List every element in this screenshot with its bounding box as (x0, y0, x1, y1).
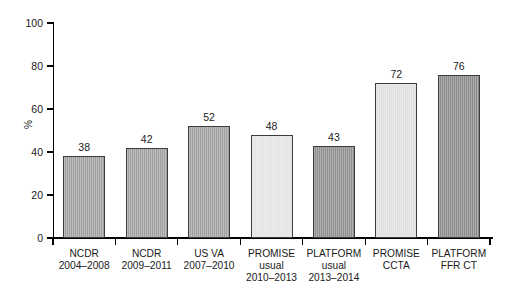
x-axis-category-label: NCDR 2009–2011 (115, 248, 177, 272)
bar-value-label: 43 (304, 132, 364, 143)
x-axis-category-label: PROMISE CCTA (365, 248, 427, 272)
x-axis-category-label: PROMISE usual 2010–2013 (240, 248, 302, 285)
bar-chart-figure: % 020406080100 38425248437276 NCDR 2004–… (0, 0, 508, 296)
x-axis-category-label: NCDR 2004–2008 (53, 248, 115, 272)
bar (251, 135, 293, 238)
bar-value-label: 76 (429, 61, 489, 72)
y-axis-tick-label: 60 (0, 104, 43, 115)
bar-value-label: 72 (366, 69, 426, 80)
x-axis-tick-mark (365, 239, 366, 245)
bar (313, 146, 355, 238)
x-axis-tick-mark (302, 239, 303, 245)
plot-area: 38425248437276 (53, 23, 490, 238)
bar (375, 83, 417, 238)
x-axis-tick-mark (240, 239, 241, 245)
bar (63, 156, 105, 238)
bar (438, 75, 480, 238)
x-axis-tick-mark (115, 239, 116, 245)
bar (126, 148, 168, 238)
x-axis-tick-mark (489, 239, 490, 245)
y-axis-tick-label: 40 (0, 147, 43, 158)
x-axis-category-label: PLATFORM usual 2013–2014 (303, 248, 365, 285)
bar-value-label: 52 (179, 112, 239, 123)
x-axis-category-label: PLATFORM FFR CT (428, 248, 490, 272)
y-axis-tick-label: 100 (0, 18, 43, 29)
x-axis-tick-mark (177, 239, 178, 245)
bar-value-label: 48 (242, 121, 302, 132)
bar-value-label: 38 (54, 142, 114, 153)
y-axis-tick-label: 80 (0, 61, 43, 72)
y-axis-title: % (23, 113, 34, 137)
bar-value-label: 42 (117, 134, 177, 145)
x-axis-tick-mark (52, 239, 53, 245)
x-axis-tick-mark (427, 239, 428, 245)
bar (188, 126, 230, 238)
x-axis-category-label: US VA 2007–2010 (178, 248, 240, 272)
y-axis-tick-label: 0 (0, 233, 43, 244)
y-axis-tick-label: 20 (0, 190, 43, 201)
